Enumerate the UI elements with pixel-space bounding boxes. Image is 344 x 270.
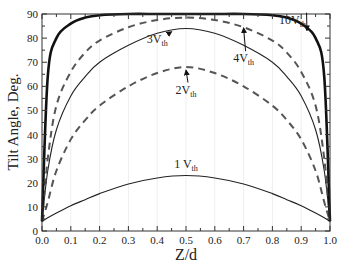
y-tick-label: 50 — [27, 104, 39, 116]
y-tick-label: 20 — [27, 177, 39, 189]
curve-labels: 1 Vth2Vth3Vth4Vth10Vth — [147, 13, 307, 174]
y-tick-label: 10 — [27, 201, 39, 213]
x-tick-label: 0.7 — [237, 234, 251, 246]
curve-label: 1 Vth — [174, 157, 198, 173]
x-tick-label: 1.0 — [323, 234, 337, 246]
curve-label: 4Vth — [233, 51, 254, 67]
x-tick-label: 0.8 — [266, 234, 280, 246]
y-tick-label: 30 — [27, 153, 39, 165]
tilt-angle-chart: 0.00.10.20.30.40.50.60.70.80.91.00102030… — [0, 0, 344, 270]
x-tick-label: 0.6 — [208, 234, 222, 246]
curve-label: 2Vth — [176, 83, 197, 99]
tick-labels: 0.00.10.20.30.40.50.60.70.80.91.00102030… — [27, 8, 337, 246]
x-tick-label: 0.1 — [64, 234, 78, 246]
y-tick-label: 80 — [27, 32, 39, 44]
y-tick-label: 60 — [27, 80, 39, 92]
grid-lines — [71, 14, 301, 231]
y-tick-label: 70 — [27, 56, 39, 68]
x-axis-label: Z/d — [175, 246, 197, 263]
x-tick-label: 0.5 — [179, 234, 193, 246]
x-tick-label: 0.4 — [150, 234, 164, 246]
y-tick-label: 90 — [27, 8, 39, 20]
y-axis-label: Tilt Angle, Deg. — [5, 74, 21, 171]
x-tick-label: 0.9 — [294, 234, 308, 246]
curve-label: 10Vth — [279, 13, 306, 29]
x-tick-label: 0.3 — [122, 234, 136, 246]
y-tick-label: 0 — [33, 225, 39, 237]
curve-label: 3Vth — [147, 32, 168, 48]
x-tick-label: 0.2 — [93, 234, 107, 246]
y-tick-label: 40 — [27, 129, 39, 141]
